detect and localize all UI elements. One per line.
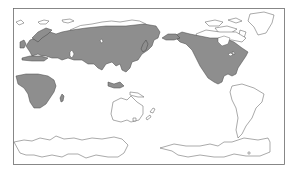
range-madagascar — [60, 94, 64, 102]
new-zealand — [146, 108, 155, 120]
antarctica — [14, 136, 270, 158]
australia — [111, 96, 143, 122]
antarctica-feature — [248, 152, 250, 154]
arctic-islands-europe — [16, 19, 74, 25]
range-southeast-asia — [108, 82, 124, 88]
new-guinea — [130, 92, 144, 97]
greenland — [248, 12, 274, 35]
south-america — [230, 84, 264, 138]
world-map — [0, 0, 298, 173]
tasmania — [133, 118, 136, 121]
range-sub-saharan-africa — [16, 74, 56, 108]
range-british-isles — [20, 40, 26, 48]
range-north-africa — [22, 56, 48, 61]
